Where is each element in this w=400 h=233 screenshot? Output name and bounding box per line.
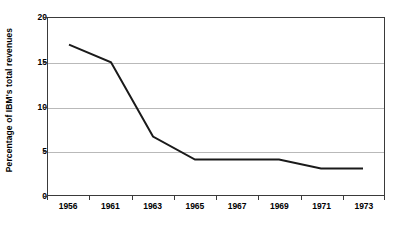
chart-figure: Percentage of IBM's total revenues 05101…	[0, 0, 400, 233]
x-tick-mark	[132, 196, 133, 200]
x-tick-label: 1961	[101, 202, 120, 211]
x-tick-mark	[174, 196, 175, 200]
y-tick-label: 10	[9, 102, 47, 111]
x-axis-ticks: 19561961196319651967196919711973	[47, 196, 385, 233]
x-tick-label: 1969	[270, 202, 289, 211]
x-tick-label: 1973	[354, 202, 373, 211]
x-tick-label: 1963	[143, 202, 162, 211]
x-tick-label: 1956	[59, 202, 78, 211]
plot-area	[47, 17, 385, 196]
x-tick-mark	[343, 196, 344, 200]
x-tick-mark	[301, 196, 302, 200]
x-tick-label: 1967	[228, 202, 247, 211]
x-tick-mark	[216, 196, 217, 200]
x-tick-mark	[47, 196, 48, 200]
y-tick-label: 20	[9, 13, 47, 22]
x-tick-mark	[258, 196, 259, 200]
x-tick-label: 1971	[312, 202, 331, 211]
data-line	[69, 45, 363, 169]
y-axis-ticks: 05101520	[0, 0, 47, 233]
y-tick-label: 0	[9, 192, 47, 201]
x-tick-mark	[89, 196, 90, 200]
y-tick-label: 15	[9, 58, 47, 67]
x-tick-mark	[384, 196, 385, 200]
line-series-svg	[48, 18, 384, 195]
x-tick-label: 1965	[185, 202, 204, 211]
y-tick-label: 5	[9, 147, 47, 156]
